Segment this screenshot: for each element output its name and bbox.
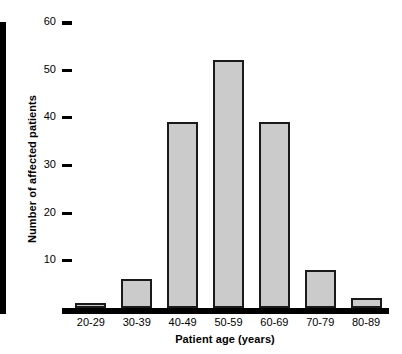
y-axis-tick-label: 40 (26, 111, 56, 122)
y-axis-tick (62, 21, 72, 24)
histogram-bar (305, 270, 336, 308)
histogram-bar (351, 298, 382, 308)
histogram-chart: Number of affected patients Patient age … (0, 0, 402, 354)
histogram-bar (167, 122, 198, 308)
y-axis-tick (62, 212, 72, 215)
y-axis-tick (62, 259, 72, 262)
histogram-bar (259, 122, 290, 308)
y-axis-tick-label: 10 (26, 254, 56, 265)
y-axis-tick-label: 30 (26, 159, 56, 170)
histogram-bar (75, 303, 106, 308)
y-axis-tick-label: 60 (26, 16, 56, 27)
y-axis-line (0, 22, 6, 314)
histogram-bar (121, 279, 152, 308)
y-axis-tick-label: 20 (26, 207, 56, 218)
x-axis-tick-label: 80-89 (336, 316, 396, 328)
y-axis-tick (62, 164, 72, 167)
histogram-bar (213, 60, 244, 308)
x-axis-line (62, 308, 389, 314)
x-axis-title: Patient age (years) (60, 333, 390, 345)
y-axis-tick-label: 50 (26, 64, 56, 75)
y-axis-tick (62, 69, 72, 72)
y-axis-tick (62, 116, 72, 119)
